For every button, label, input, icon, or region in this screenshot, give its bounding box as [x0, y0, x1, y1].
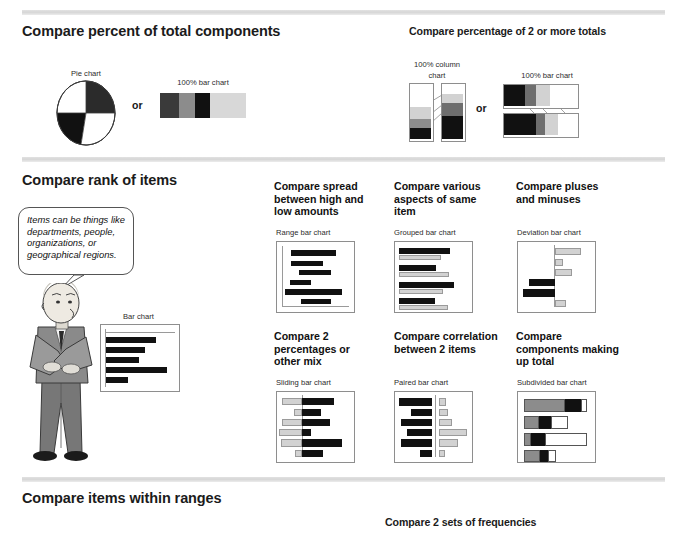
- bar-left: [295, 450, 302, 457]
- card-title-deviation: Compare pluses and minuses: [516, 180, 620, 205]
- stack-segment: [536, 114, 545, 135]
- speech-bubble-text: Items can be things like departments, pe…: [27, 214, 125, 260]
- chart-axis: [282, 246, 283, 307]
- stack-segment: [442, 103, 463, 116]
- bar-right: [439, 398, 446, 406]
- bar-positive: [555, 300, 566, 307]
- bar-left: [407, 429, 432, 436]
- card-title-grouped: Compare various aspects of same item: [394, 180, 498, 218]
- stack-segment: [558, 114, 576, 135]
- stack-segment: [410, 119, 431, 128]
- bar-left: [401, 439, 432, 447]
- stack-segment: [504, 114, 536, 135]
- section-subheading-percentage-totals: Compare percentage of 2 or more totals: [409, 25, 606, 37]
- sliding-bar-chart-caption: Sliding bar chart: [276, 378, 331, 387]
- bar-right: [439, 450, 445, 457]
- grouped-bar-chart-caption: Grouped bar chart: [394, 228, 456, 237]
- bar: [106, 347, 145, 353]
- deviation-bar-chart-caption: Deviation bar chart: [517, 228, 581, 237]
- pct-column-chart-caption-line1: 100% column: [402, 60, 472, 71]
- range-bar: [301, 299, 331, 304]
- bar-negative: [529, 279, 555, 286]
- pct-bar-pair-caption: 100% bar chart: [503, 71, 591, 81]
- stack-segment: [550, 85, 576, 106]
- chart-gridline: [105, 332, 175, 333]
- pct-bar-chart: [160, 93, 246, 118]
- range-bar: [291, 261, 323, 266]
- section-heading-percent-of-total: Compare percent of total components: [22, 23, 280, 39]
- pct-bar-pair-top: [503, 84, 579, 109]
- bar-right: [302, 409, 321, 416]
- section-heading-items-within-ranges: Compare items within ranges: [22, 490, 222, 506]
- stack-segment: [410, 107, 431, 119]
- paired-bar-chart: [394, 391, 473, 463]
- bar-left: [282, 419, 302, 426]
- deviation-bar-chart: [517, 241, 596, 313]
- or-label-right: or: [476, 102, 487, 114]
- bar-left: [279, 429, 302, 436]
- figure-bar-chart-caption: Bar chart: [123, 312, 154, 321]
- card-title-sliding: Compare 2 percentages or other mix: [274, 330, 378, 368]
- bar-light: [399, 272, 449, 277]
- stack-segment: [442, 94, 463, 103]
- stack-segment: [210, 93, 246, 118]
- stack-segment: [195, 93, 210, 118]
- bar-right: [302, 398, 334, 405]
- or-label-left: or: [132, 99, 143, 111]
- bar-dark: [399, 282, 454, 288]
- bar-left: [401, 419, 432, 426]
- pct-column-chart-caption-line2: chart: [402, 71, 472, 82]
- stack-segment: [524, 399, 565, 412]
- stack-segment: [545, 114, 558, 135]
- stack-segment: [540, 450, 548, 462]
- subdivided-bar-chart: [517, 391, 596, 463]
- bar: [106, 377, 128, 383]
- stack-segment: [524, 433, 531, 446]
- pie-chart-caption: Pie chart: [56, 69, 116, 79]
- bar-right: [439, 409, 448, 416]
- stack-segment: [160, 93, 179, 118]
- bar-dark: [399, 248, 450, 254]
- bar-light: [399, 255, 441, 260]
- pct-bar-pair-bottom: [503, 113, 579, 138]
- bar-light: [399, 289, 443, 294]
- bar-left: [411, 409, 432, 416]
- section-subheading-frequencies: Compare 2 sets of frequencies: [385, 516, 536, 528]
- range-bar: [291, 250, 336, 256]
- bar-right: [439, 419, 452, 426]
- bar-dark: [399, 298, 435, 304]
- section-divider-bottom: [22, 477, 665, 482]
- bar-positive: [555, 259, 563, 266]
- stack-segment: [551, 416, 568, 429]
- stack-segment: [539, 416, 551, 429]
- card-title-subdivided: Compare components making up total: [516, 330, 620, 368]
- bar-negative: [523, 289, 555, 297]
- bar-right: [439, 429, 467, 436]
- stack-segment: [536, 85, 550, 106]
- card-title-range: Compare spread between high and low amou…: [274, 180, 378, 218]
- bar: [106, 367, 167, 373]
- sliding-bar-chart: [276, 391, 355, 463]
- bar-left: [420, 450, 432, 457]
- bar-light: [399, 305, 448, 310]
- bar-right: [302, 450, 323, 457]
- bar-positive: [555, 248, 581, 255]
- stack-segment: [179, 93, 195, 118]
- bar-dark: [399, 265, 436, 271]
- bar-right: [302, 419, 330, 426]
- stack-segment: [442, 116, 463, 139]
- bar-left: [399, 398, 432, 406]
- section-divider-top: [22, 10, 665, 15]
- stack-segment: [524, 416, 539, 429]
- stack-segment: [410, 128, 431, 139]
- figure-bar-chart: [100, 324, 180, 392]
- section-heading-rank-of-items: Compare rank of items: [22, 172, 177, 188]
- stack-segment: [545, 433, 587, 446]
- stack-segment: [565, 399, 581, 412]
- stack-segment: [442, 84, 463, 94]
- bar-left: [281, 439, 302, 447]
- range-bar: [285, 289, 342, 295]
- subdivided-bar-chart-caption: Subdivided bar chart: [517, 378, 587, 387]
- guide-page: Compare percent of total components Comp…: [0, 0, 679, 535]
- bar-left: [294, 409, 302, 416]
